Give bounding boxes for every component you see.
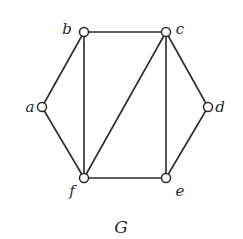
graph-diagram: abcdef G	[0, 0, 243, 239]
node-label-e: e	[176, 182, 185, 200]
edge-a-b	[42, 32, 84, 107]
node-label-c: c	[176, 20, 185, 38]
graph-title: G	[114, 217, 128, 237]
node-label-d: d	[215, 98, 225, 116]
edges	[42, 32, 208, 178]
node-a	[38, 103, 47, 112]
edge-c-f	[84, 32, 166, 178]
edge-c-d	[166, 32, 208, 107]
node-labels: abcdef	[26, 20, 225, 200]
node-c	[162, 28, 171, 37]
node-f	[80, 174, 89, 183]
node-label-a: a	[26, 98, 35, 116]
node-d	[204, 103, 213, 112]
edge-a-f	[42, 107, 84, 178]
node-label-b: b	[62, 20, 72, 38]
edge-d-e	[166, 107, 208, 178]
node-label-f: f	[68, 182, 77, 200]
node-e	[162, 174, 171, 183]
node-b	[80, 28, 89, 37]
